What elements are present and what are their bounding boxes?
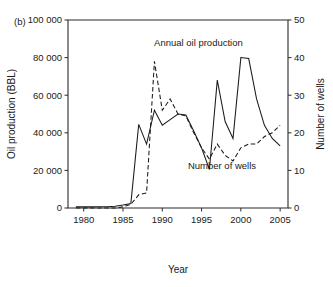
chart-annotations: Annual oil productionNumber of wells	[154, 37, 256, 171]
y-tick-label: 80 000	[33, 52, 62, 63]
y2-tick-label: 40	[294, 52, 305, 63]
y2-axis-ticks: 01020304050	[288, 14, 305, 213]
x-tick-label: 2000	[230, 214, 251, 225]
figure-panel-b: 020 00040 00060 00080 000100 000 0102030…	[0, 0, 333, 287]
y-tick-label: 60 000	[33, 90, 62, 101]
x-tick-label: 2005	[270, 214, 291, 225]
y-axis-title: Oil production (BBL)	[6, 69, 17, 159]
x-tick-label: 1990	[152, 214, 173, 225]
panel-label: (b)	[14, 16, 26, 27]
y2-tick-label: 10	[294, 165, 305, 176]
data-series-group	[76, 58, 280, 208]
y-tick-label: 20 000	[33, 165, 62, 176]
x-tick-label: 1980	[73, 214, 94, 225]
y2-tick-label: 0	[294, 202, 299, 213]
y2-tick-label: 50	[294, 14, 305, 25]
x-axis-title: Year	[168, 264, 189, 275]
y2-tick-label: 20	[294, 127, 305, 138]
x-tick-label: 1995	[191, 214, 212, 225]
series-annotation-label: Annual oil production	[154, 37, 243, 48]
y-axis-ticks: 020 00040 00060 00080 000100 000	[28, 14, 68, 213]
y-tick-label: 40 000	[33, 127, 62, 138]
y-tick-label: 100 000	[28, 14, 62, 25]
oil-production-wells-chart: 020 00040 00060 00080 000100 000 0102030…	[0, 0, 333, 287]
series-annual-oil-production	[76, 58, 280, 207]
y2-tick-label: 30	[294, 90, 305, 101]
series-number-of-wells	[76, 61, 280, 208]
y2-axis-title: Number of wells	[315, 78, 326, 150]
y-tick-label: 0	[57, 202, 62, 213]
x-tick-label: 1985	[112, 214, 133, 225]
series-annotation-label: Number of wells	[188, 160, 256, 171]
x-axis-ticks: 198019851990199520002005	[73, 208, 291, 225]
